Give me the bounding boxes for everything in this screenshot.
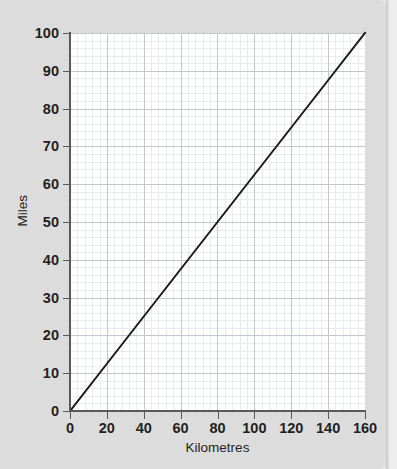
- y-tick-50: [63, 222, 70, 223]
- x-tick-60: [181, 412, 182, 419]
- x-tick-40: [144, 412, 145, 419]
- y-tick-80: [63, 109, 70, 110]
- x-tick-140: [328, 412, 329, 419]
- series-line-kilometres-to-miles: [70, 33, 365, 411]
- y-tick-30: [63, 298, 70, 299]
- y-tick-label-70: 70: [0, 139, 59, 154]
- x-tick-120: [291, 412, 292, 419]
- y-tick-60: [63, 184, 70, 185]
- x-tick-160: [365, 412, 366, 419]
- x-tick-80: [218, 412, 219, 419]
- x-tick-20: [107, 412, 108, 419]
- page-edge-shadow: [386, 0, 390, 469]
- y-tick-100: [63, 33, 70, 34]
- y-tick-label-40: 40: [0, 253, 59, 268]
- y-tick-label-20: 20: [0, 328, 59, 343]
- y-tick-40: [63, 260, 70, 261]
- x-tick-100: [254, 412, 255, 419]
- x-tick-label-160: 160: [338, 421, 392, 436]
- y-tick-0: [63, 411, 70, 412]
- series-polyline: [70, 33, 365, 411]
- plot-area: [70, 33, 365, 411]
- x-tick-0: [70, 412, 71, 419]
- figure-card: 0102030405060708090100 02040608010012014…: [0, 0, 386, 469]
- y-tick-label-0: 0: [0, 404, 59, 419]
- y-tick-90: [63, 71, 70, 72]
- y-tick-label-10: 10: [0, 366, 59, 381]
- y-tick-10: [63, 373, 70, 374]
- y-tick-label-30: 30: [0, 291, 59, 306]
- y-axis-title: Miles: [16, 176, 30, 246]
- x-axis-title: Kilometres: [70, 441, 365, 455]
- y-tick-70: [63, 146, 70, 147]
- y-tick-label-90: 90: [0, 64, 59, 79]
- y-tick-label-80: 80: [0, 102, 59, 117]
- y-tick-label-100: 100: [0, 26, 59, 41]
- y-tick-20: [63, 335, 70, 336]
- conversion-graph: 0102030405060708090100 02040608010012014…: [0, 0, 386, 469]
